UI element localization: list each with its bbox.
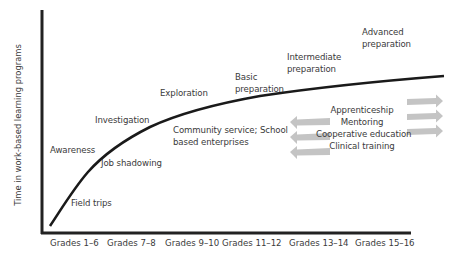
stage-intermediate-preparation: Intermediate preparation	[287, 51, 341, 75]
activity-cooperative-education: Cooperative education	[316, 128, 408, 140]
community-line2: based enterprises	[173, 136, 288, 148]
stage-basic-preparation: Basic preparation	[235, 71, 284, 95]
activity-apprenticeship: Apprenticeship	[316, 104, 408, 116]
right-arrow-icon	[407, 110, 443, 123]
stage-intermediate-line2: preparation	[287, 63, 341, 75]
activity-mentoring: Mentoring	[316, 116, 408, 128]
stage-basic-line2: preparation	[235, 83, 284, 95]
y-axis-label: Time in work-based learning programs	[13, 44, 23, 206]
x-tick-grades-13-14: Grades 13–14	[289, 238, 349, 248]
stage-advanced-preparation: Advanced preparation	[362, 26, 411, 50]
stage-advanced-line2: preparation	[362, 38, 411, 50]
stage-awareness: Awareness	[50, 144, 95, 156]
right-arrow-icon	[407, 95, 443, 108]
activity-advanced-list: Apprenticeship Mentoring Cooperative edu…	[316, 104, 408, 152]
right-arrow-icon	[407, 125, 443, 138]
x-tick-grades-15-16: Grades 15–16	[355, 238, 415, 248]
stage-advanced-line1: Advanced	[362, 26, 411, 38]
x-tick-grades-1-6: Grades 1–6	[50, 238, 99, 248]
x-tick-grades-11-12: Grades 11–12	[222, 238, 282, 248]
right-arrows	[407, 95, 443, 138]
activity-clinical-training: Clinical training	[316, 140, 408, 152]
stage-exploration: Exploration	[160, 87, 208, 99]
x-tick-grades-7-8: Grades 7–8	[107, 238, 156, 248]
activity-job-shadowing: Job shadowing	[101, 157, 162, 169]
community-line1: Community service; School	[173, 124, 288, 136]
activity-community-service: Community service; School based enterpri…	[173, 124, 288, 148]
work-based-learning-diagram: Time in work-based learning programs Awa…	[0, 0, 456, 260]
stage-investigation: Investigation	[95, 114, 149, 126]
stage-intermediate-line1: Intermediate	[287, 51, 341, 63]
x-tick-grades-9-10: Grades 9–10	[165, 238, 219, 248]
activity-field-trips: Field trips	[71, 197, 112, 209]
stage-basic-line1: Basic	[235, 71, 284, 83]
